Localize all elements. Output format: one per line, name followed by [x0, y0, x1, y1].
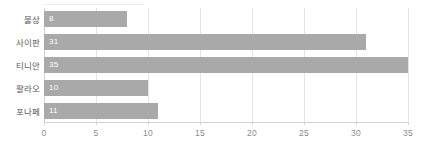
- x-axis-tick-mark: [44, 122, 45, 125]
- bar[interactable]: 35: [44, 57, 408, 73]
- x-axis-tick-mark: [96, 122, 97, 125]
- x-axis-tick-mark: [356, 122, 357, 125]
- x-axis-tick-mark: [148, 122, 149, 125]
- category-label: 불상: [24, 8, 40, 31]
- bar-value-label: 8: [44, 15, 54, 23]
- x-axis-tick-mark: [304, 122, 305, 125]
- category-label: 팔라오: [16, 76, 40, 99]
- bar-value-label: 10: [44, 84, 58, 92]
- bar-row[interactable]: 35: [44, 54, 408, 77]
- gridline: [408, 8, 409, 122]
- bar[interactable]: 31: [44, 34, 366, 50]
- bar-value-label: 11: [44, 107, 58, 115]
- x-axis-tick-mark: [200, 122, 201, 125]
- x-axis-tick-mark: [408, 122, 409, 125]
- bar-row[interactable]: 11: [44, 99, 408, 122]
- x-axis-tick-label: 10: [143, 128, 153, 138]
- category-label: 티니안: [16, 54, 40, 77]
- bar[interactable]: 8: [44, 11, 127, 27]
- x-axis-tick-label: 30: [351, 128, 361, 138]
- category-axis-labels: 불상사이판티니안팔라오포나페: [0, 8, 40, 122]
- bar[interactable]: 11: [44, 103, 158, 119]
- bar-value-label: 31: [44, 38, 58, 46]
- x-axis-tick-label: 5: [94, 128, 99, 138]
- bar-value-label: 35: [44, 61, 58, 69]
- category-label: 사이판: [16, 31, 40, 54]
- x-axis-tick-label: 15: [195, 128, 205, 138]
- bar-row[interactable]: 8: [44, 8, 408, 31]
- bar-row[interactable]: 31: [44, 31, 408, 54]
- x-axis-tick-label: 35: [403, 128, 413, 138]
- x-axis-tick-label: 25: [299, 128, 309, 138]
- bar-series: 831351011: [44, 8, 408, 122]
- bar-chart: 831351011 불상사이판티니안팔라오포나페 05101520253035: [0, 0, 421, 155]
- x-axis-tick-label: 0: [42, 128, 47, 138]
- x-axis-tick-mark: [252, 122, 253, 125]
- top-divider: [44, 4, 144, 5]
- plot-area: 831351011: [44, 8, 408, 122]
- bar-row[interactable]: 10: [44, 76, 408, 99]
- x-axis-tick-label: 20: [247, 128, 257, 138]
- x-axis-line: [44, 122, 409, 123]
- x-axis-tick-labels: 05101520253035: [0, 128, 421, 144]
- category-label: 포나페: [16, 99, 40, 122]
- bar[interactable]: 10: [44, 80, 148, 96]
